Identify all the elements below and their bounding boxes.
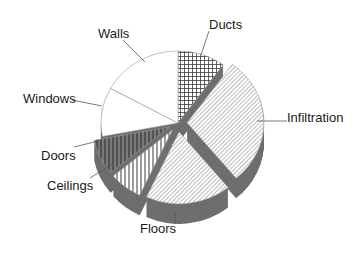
label-walls: Walls <box>98 26 130 41</box>
pie-chart-svg: Walls Ducts Windows Infiltration Doors C… <box>0 0 358 258</box>
ducts-leader-line <box>201 31 209 55</box>
label-ducts: Ducts <box>209 17 243 32</box>
label-ceilings: Ceilings <box>47 178 94 193</box>
label-infiltration: Infiltration <box>287 110 343 125</box>
windows-leader-line <box>72 100 102 106</box>
walls-leader-line <box>123 40 145 62</box>
label-floors: Floors <box>140 221 177 236</box>
pie-chart: Walls Ducts Windows Infiltration Doors C… <box>0 0 358 258</box>
label-windows: Windows <box>23 91 76 106</box>
label-doors: Doors <box>41 148 76 163</box>
